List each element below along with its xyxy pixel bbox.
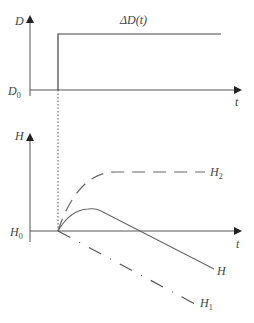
h-x-axis-label: t xyxy=(236,237,240,251)
step-label: ΔD(t) xyxy=(119,13,147,27)
h-y-axis-label: H xyxy=(14,129,25,143)
step-input-line xyxy=(58,34,221,90)
d-baseline-label: D0 xyxy=(7,84,21,100)
h-baseline-label: H0 xyxy=(9,225,23,241)
response-diagram: D ΔD(t) D0 t H H0 t H2 H H1 xyxy=(0,0,254,323)
curve-h-label: H xyxy=(216,264,227,278)
bottom-panel: H H0 t H2 H H1 xyxy=(9,129,240,312)
d-x-axis-label: t xyxy=(235,95,239,109)
curve-h1 xyxy=(58,231,195,304)
curve-h2 xyxy=(58,172,205,231)
d-y-axis-label: D xyxy=(14,14,24,28)
curve-h2-label: H2 xyxy=(209,165,223,181)
top-panel: D ΔD(t) D0 t xyxy=(7,13,240,109)
curve-h xyxy=(58,209,214,269)
curve-h1-label: H1 xyxy=(199,296,213,312)
